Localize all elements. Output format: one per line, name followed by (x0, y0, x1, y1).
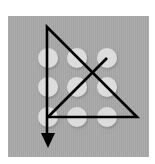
triangle-outline-stroke (47, 27, 137, 134)
arrow-down-icon (41, 133, 55, 148)
pattern-lock-diagram (0, 0, 155, 164)
pattern-strokes (47, 27, 137, 134)
